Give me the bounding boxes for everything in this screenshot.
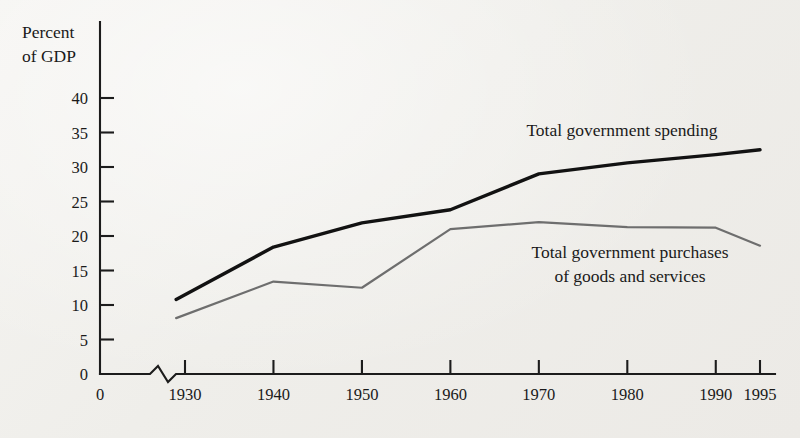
y-axis-tick-label: 30 [72, 158, 89, 177]
line-chart: Percent of GDP 0510152025303540 19301940… [0, 0, 800, 438]
x-axis-tick-label: 1980 [611, 385, 644, 404]
annotation-total-government-purchases-line2: of goods and services [554, 266, 705, 286]
x-axis-tick-labels: 19301940195019601970198019901995 [169, 385, 777, 404]
y-axis-title-line1: Percent [22, 22, 75, 42]
chart-canvas: Percent of GDP 0510152025303540 19301940… [0, 0, 800, 438]
x-axis-tick-label: 1995 [744, 385, 777, 404]
origin-tick-label: 0 [96, 385, 104, 404]
y-axis-tick-label: 10 [72, 296, 89, 315]
y-axis-tick-label: 40 [72, 89, 89, 108]
y-axis-tick-label: 35 [72, 124, 89, 143]
y-axis-tick-label: 0 [80, 365, 88, 384]
x-axis-line-with-break [100, 366, 775, 382]
y-axis-tick-label: 25 [72, 193, 89, 212]
y-axis-tick-label: 5 [80, 331, 88, 350]
y-axis-tick-label: 20 [72, 227, 89, 246]
y-axis-tick-labels: 0510152025303540 [72, 89, 89, 384]
annotation-total-government-purchases-line1: Total government purchases [531, 242, 728, 262]
annotation-total-government-spending: Total government spending [526, 120, 717, 140]
y-axis-ticks [100, 98, 114, 340]
y-axis-title-line2: of GDP [22, 46, 76, 66]
x-axis-tick-label: 1970 [522, 385, 555, 404]
x-axis-tick-label: 1960 [434, 385, 467, 404]
x-axis-tick-label: 1950 [345, 385, 378, 404]
x-axis-tick-label: 1940 [257, 385, 290, 404]
x-axis-tick-label: 1930 [169, 385, 202, 404]
y-axis-tick-label: 15 [72, 262, 89, 281]
x-axis-ticks [185, 360, 760, 374]
x-axis-tick-label: 1990 [699, 385, 732, 404]
